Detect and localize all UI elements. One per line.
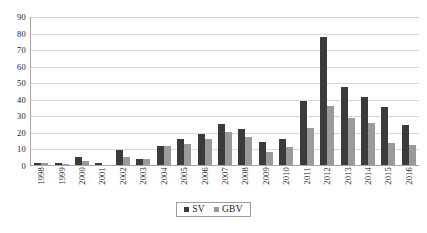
bar-group [358, 17, 378, 165]
bar-group [154, 17, 174, 165]
x-axis-category: 1999 [51, 167, 71, 201]
bar-gbv-2005[interactable] [184, 144, 191, 165]
x-axis-category: 2012 [317, 167, 337, 201]
x-axis-category: 2014 [358, 167, 378, 201]
y-axis-tick-label: 30 [17, 112, 26, 121]
x-axis-category: 2009 [256, 167, 276, 201]
bar-gbv-2011[interactable] [307, 128, 314, 165]
bar-group [215, 17, 235, 165]
bar-gbv-2013[interactable] [348, 118, 355, 166]
x-axis-tick-label: 2003 [139, 167, 148, 185]
x-axis-tick-label: 2001 [98, 167, 107, 185]
x-axis-category: 2016 [399, 167, 419, 201]
x-axis-tick-label: 2015 [384, 167, 393, 185]
x-axis-category: 2001 [92, 167, 112, 201]
bar-sv-2008[interactable] [238, 129, 245, 165]
x-axis-category: 2008 [235, 167, 255, 201]
y-axis-tick-label: 80 [17, 29, 26, 38]
legend: SV GBV [0, 202, 427, 217]
bar-sv-2011[interactable] [300, 101, 307, 165]
x-axis-tick-label: 2009 [262, 167, 271, 185]
x-axis-category: 2013 [337, 167, 357, 201]
x-axis-tick-label: 2006 [200, 167, 209, 185]
bar-sv-2009[interactable] [259, 142, 266, 165]
bar-sv-2015[interactable] [381, 107, 388, 165]
bar-sv-1999[interactable] [55, 163, 62, 165]
legend-entry-gbv[interactable]: GBV [214, 204, 243, 214]
bar-sv-2005[interactable] [177, 139, 184, 165]
legend-box: SV GBV [176, 202, 251, 217]
bar-sv-2010[interactable] [279, 139, 286, 165]
bar-group [256, 17, 276, 165]
bar-group [72, 17, 92, 165]
bar-gbv-2002[interactable] [123, 157, 130, 165]
legend-label-gbv: GBV [222, 204, 243, 214]
x-axis-tick-label: 2005 [180, 167, 189, 185]
y-axis-tick-label: 90 [17, 13, 26, 22]
bar-sv-2003[interactable] [136, 159, 143, 165]
bar-gbv-1999[interactable] [62, 164, 69, 165]
bar-group [235, 17, 255, 165]
bar-group [133, 17, 153, 165]
y-axis-tick-label: 10 [17, 145, 26, 154]
bar-sv-2012[interactable] [320, 37, 327, 165]
bar-gbv-2016[interactable] [409, 145, 416, 165]
x-axis-tick-label: 2010 [282, 167, 291, 185]
bar-gbv-2015[interactable] [388, 143, 395, 165]
x-axis-category: 2003 [133, 167, 153, 201]
bar-gbv-2010[interactable] [286, 147, 293, 165]
bar-gbv-2000[interactable] [82, 161, 89, 165]
bar-gbv-2012[interactable] [327, 106, 334, 165]
bar-group [92, 17, 112, 165]
bar-gbv-2008[interactable] [245, 137, 252, 165]
x-axis-tick-label: 2012 [323, 167, 332, 185]
bar-gbv-1998[interactable] [41, 163, 48, 165]
x-axis-tick-label: 2011 [302, 167, 311, 185]
x-axis-tick-label: 2004 [159, 167, 168, 185]
bar-sv-2007[interactable] [218, 124, 225, 165]
x-axis-category: 2010 [276, 167, 296, 201]
bar-gbv-2006[interactable] [205, 139, 212, 165]
bar-group [276, 17, 296, 165]
legend-swatch-gbv-icon [214, 207, 219, 212]
bar-sv-2006[interactable] [198, 134, 205, 165]
x-axis-tick-label: 1998 [37, 167, 46, 185]
x-axis-tick-label: 2016 [405, 167, 414, 185]
bar-gbv-2009[interactable] [266, 152, 273, 165]
bar-sv-2002[interactable] [116, 150, 123, 165]
bar-gbv-2003[interactable] [143, 159, 150, 165]
x-axis-category: 1998 [31, 167, 51, 201]
bar-sv-2013[interactable] [341, 87, 348, 165]
y-axis-tick-label: 40 [17, 96, 26, 105]
x-axis-category: 2011 [296, 167, 316, 201]
x-axis-tick-label: 2007 [221, 167, 230, 185]
bar-sv-2001[interactable] [95, 163, 102, 165]
x-axis-tick-label: 1999 [57, 167, 66, 185]
x-axis-category: 2006 [194, 167, 214, 201]
bar-group [113, 17, 133, 165]
y-axis-tick-label: 0 [22, 162, 26, 171]
bar-sv-2004[interactable] [157, 146, 164, 165]
bar-group [378, 17, 398, 165]
x-axis: 1998199920002001200220032004200520062007… [31, 167, 419, 201]
bar-sv-1998[interactable] [34, 163, 41, 165]
bar-gbv-2004[interactable] [164, 146, 171, 165]
legend-entry-sv[interactable]: SV [184, 204, 205, 214]
bar-group [337, 17, 357, 165]
bar-group [51, 17, 71, 165]
bar-sv-2016[interactable] [402, 125, 409, 165]
bar-sv-2014[interactable] [361, 97, 368, 165]
y-axis-tick-label: 20 [17, 129, 26, 138]
bar-gbv-2014[interactable] [368, 123, 375, 165]
y-axis-tick-label: 50 [17, 79, 26, 88]
bar-group [31, 17, 51, 165]
bar-gbv-2007[interactable] [225, 132, 232, 165]
x-axis-tick-label: 2014 [364, 167, 373, 185]
x-axis-tick-label: 2000 [78, 167, 87, 185]
x-axis-tick-label: 2008 [241, 167, 250, 185]
x-axis-category: 2002 [113, 167, 133, 201]
x-axis-category: 2000 [72, 167, 92, 201]
x-axis-category: 2004 [154, 167, 174, 201]
bar-sv-2000[interactable] [75, 157, 82, 165]
x-axis-tick-label: 2002 [119, 167, 128, 185]
